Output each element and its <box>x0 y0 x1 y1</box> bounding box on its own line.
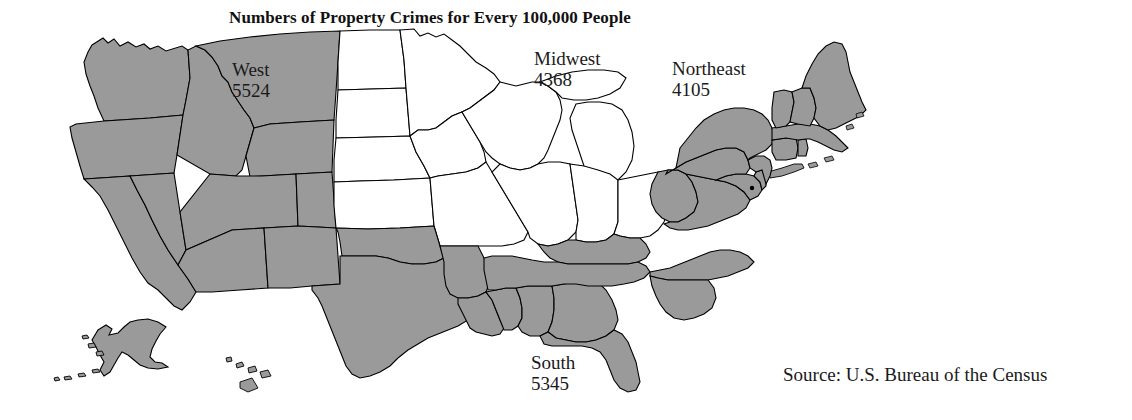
state-nc <box>650 250 754 280</box>
district-of-columbia-marker <box>750 186 754 190</box>
state-co <box>296 172 336 228</box>
property-crimes-region-map-figure: Numbers of Property Crimes for Every 100… <box>0 0 1132 420</box>
state-or <box>70 115 183 179</box>
region-name-northeast: Northeast <box>672 58 746 79</box>
state-ga <box>548 280 618 342</box>
region-label-midwest: Midwest 4368 <box>534 48 601 91</box>
region-label-south: South 5345 <box>531 352 575 395</box>
state-ri <box>798 139 808 156</box>
region-name-south: South <box>531 352 575 373</box>
region-value-midwest: 4368 <box>534 69 601 90</box>
state-nd <box>338 30 406 90</box>
state-sd <box>336 88 410 138</box>
state-al <box>516 286 554 336</box>
source-note: Source: U.S. Bureau of the Census <box>783 364 1047 386</box>
state-sc <box>650 276 716 320</box>
state-wa <box>84 38 190 121</box>
region-west[interactable] <box>54 31 340 392</box>
region-label-west: West 5524 <box>232 59 270 102</box>
region-value-south: 5345 <box>531 373 575 394</box>
region-value-west: 5524 <box>232 80 270 101</box>
region-name-midwest: Midwest <box>534 48 601 69</box>
cape-cod-islands <box>808 156 834 168</box>
region-name-west: West <box>232 59 270 80</box>
region-midwest[interactable] <box>334 29 670 246</box>
state-ak <box>92 319 168 376</box>
region-label-northeast: Northeast 4105 <box>672 58 746 101</box>
state-nm <box>264 226 340 288</box>
state-hi <box>226 357 271 392</box>
state-wy <box>246 120 334 177</box>
state-ny-long-island <box>768 164 804 178</box>
state-in <box>570 164 618 242</box>
state-ar <box>440 246 490 298</box>
region-value-northeast: 4105 <box>672 79 746 100</box>
state-ct <box>772 138 798 160</box>
state-ks <box>334 178 434 229</box>
state-ak-aleutians <box>54 369 100 381</box>
